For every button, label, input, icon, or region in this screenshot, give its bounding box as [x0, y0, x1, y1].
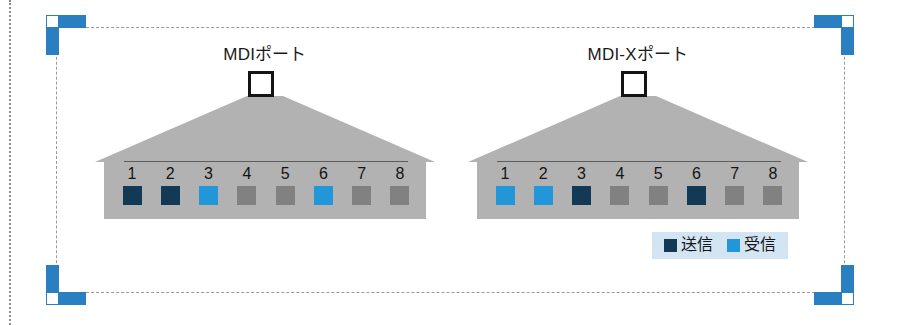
selection-handle-bottom-left[interactable]	[46, 265, 86, 305]
pin-swatch-inactive	[352, 186, 371, 205]
pin-number-label: 1	[501, 165, 510, 183]
port-diagram-mdix: MDI-Xポート 12345678	[468, 40, 808, 220]
pin-number-label: 2	[166, 165, 175, 183]
handle-notch	[842, 16, 853, 27]
pin-number-label: 4	[615, 165, 624, 183]
pin-5: 5	[271, 165, 299, 217]
pin-number-label: 3	[577, 165, 586, 183]
selection-handle-bottom-right[interactable]	[814, 265, 854, 305]
handle-notch	[47, 293, 58, 304]
pin-number-label: 5	[654, 165, 663, 183]
handle-notch	[47, 16, 58, 27]
legend-label: 受信	[744, 236, 776, 254]
port-diagram-mdi: MDIポート 12345678	[95, 40, 435, 220]
selection-handle-top-right[interactable]	[814, 15, 854, 55]
legend-swatch-receive	[727, 239, 740, 252]
pin-number-label: 8	[769, 165, 778, 183]
pin-number-label: 6	[692, 165, 701, 183]
page-edge-dotted-rule	[9, 0, 11, 325]
pin-2: 2	[529, 165, 557, 217]
pin-4: 4	[606, 165, 634, 217]
pin-7: 7	[348, 165, 376, 217]
legend-swatch-transmit	[664, 239, 677, 252]
pin-swatch-receive	[496, 186, 515, 205]
port-fan-shape	[468, 96, 808, 162]
pin-number-label: 6	[319, 165, 328, 183]
legend-entry-transmit: 送信	[664, 236, 713, 254]
port-title-mdix: MDI-Xポート	[468, 40, 808, 65]
rj45-connector-icon	[621, 71, 647, 97]
pin-1: 1	[118, 165, 146, 217]
pin-swatch-inactive	[237, 186, 256, 205]
pin-number-label: 1	[128, 165, 137, 183]
port-pin-bar-mdix: 12345678	[477, 159, 799, 219]
pin-number-label: 5	[281, 165, 290, 183]
port-bar-divider-line	[124, 161, 408, 162]
port-bar-divider-line	[497, 161, 781, 162]
pin-swatch-inactive	[390, 186, 409, 205]
pin-number-label: 7	[357, 165, 366, 183]
pin-4: 4	[233, 165, 261, 217]
port-pin-bar-mdi: 12345678	[104, 159, 426, 219]
pin-number-label: 7	[730, 165, 739, 183]
pin-swatch-receive	[534, 186, 553, 205]
pin-3: 3	[195, 165, 223, 217]
pin-swatch-inactive	[649, 186, 668, 205]
pin-6: 6	[682, 165, 710, 217]
pin-3: 3	[568, 165, 596, 217]
rj45-connector-icon	[248, 71, 274, 97]
pin-swatch-inactive	[763, 186, 782, 205]
pin-swatch-transmit	[572, 186, 591, 205]
handle-notch	[842, 293, 853, 304]
pin-8: 8	[759, 165, 787, 217]
pin-row-mdi: 12345678	[118, 165, 414, 217]
pin-6: 6	[309, 165, 337, 217]
pin-swatch-receive	[314, 186, 333, 205]
pin-swatch-transmit	[123, 186, 142, 205]
pin-swatch-inactive	[610, 186, 629, 205]
pin-swatch-inactive	[276, 186, 295, 205]
selection-handle-top-left[interactable]	[46, 15, 86, 55]
legend: 送信受信	[652, 232, 788, 259]
pin-7: 7	[721, 165, 749, 217]
pin-row-mdix: 12345678	[491, 165, 787, 217]
pin-5: 5	[644, 165, 672, 217]
legend-label: 送信	[681, 236, 713, 254]
pin-swatch-receive	[199, 186, 218, 205]
port-title-mdi: MDIポート	[95, 40, 435, 65]
port-fan-shape	[95, 96, 435, 162]
pin-swatch-transmit	[687, 186, 706, 205]
pin-8: 8	[386, 165, 414, 217]
pin-swatch-transmit	[161, 186, 180, 205]
pin-1: 1	[491, 165, 519, 217]
pin-number-label: 8	[396, 165, 405, 183]
legend-entry-receive: 受信	[727, 236, 776, 254]
pin-2: 2	[156, 165, 184, 217]
pin-number-label: 2	[539, 165, 548, 183]
pin-number-label: 3	[204, 165, 213, 183]
pin-swatch-inactive	[725, 186, 744, 205]
pin-number-label: 4	[242, 165, 251, 183]
